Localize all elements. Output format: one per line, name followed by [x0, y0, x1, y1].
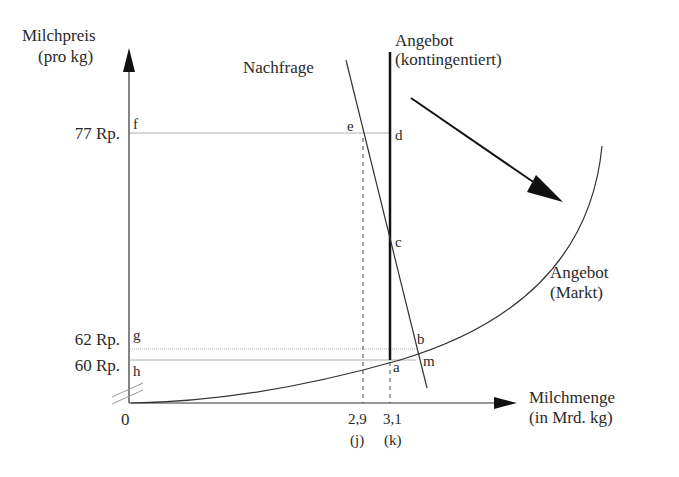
- demand-label: Nachfrage: [243, 58, 314, 77]
- x-axis-label-1: Milchmenge: [529, 388, 615, 407]
- price-tick-62: 62 Rp.: [40, 330, 120, 349]
- point-b: b: [417, 330, 425, 349]
- point-e: e: [347, 117, 354, 136]
- point-d: d: [395, 126, 403, 145]
- demand-line: [346, 60, 427, 388]
- axis-break-icon: [112, 383, 143, 404]
- milk-market-diagram: Milchpreis (pro kg) Angebot (kontingenti…: [0, 0, 679, 477]
- point-k: (k): [384, 431, 402, 450]
- point-c: c: [395, 233, 402, 252]
- point-g: g: [133, 326, 141, 345]
- y-axis-arrow-icon: [123, 48, 135, 72]
- supply-market-label-2: (Markt): [550, 283, 603, 302]
- quantity-tick-3-1: 3,1: [383, 410, 402, 429]
- point-f: f: [133, 115, 138, 134]
- shift-arrow-icon: [527, 175, 563, 202]
- price-tick-60: 60 Rp.: [40, 356, 120, 375]
- y-axis-label-1: Milchpreis: [22, 26, 96, 45]
- origin-label: 0: [121, 410, 130, 429]
- shift-arrow-line: [411, 98, 545, 190]
- dashed-drops: [363, 138, 390, 403]
- x-axis-arrow-icon: [494, 397, 517, 409]
- price-tick-77: 77 Rp.: [40, 124, 120, 143]
- point-h: h: [133, 362, 141, 381]
- point-j: (j): [350, 431, 364, 450]
- x-axis-label-2: (in Mrd. kg): [529, 408, 613, 427]
- y-axis-label-2: (pro kg): [38, 47, 93, 66]
- guide-lines: [130, 133, 418, 360]
- quantity-tick-2-9: 2,9: [348, 410, 367, 429]
- supply-quota-label-2: (kontingentiert): [395, 50, 502, 69]
- point-m: m: [423, 352, 435, 371]
- supply-quota-label-1: Angebot: [395, 31, 454, 50]
- supply-market-label-1: Angebot: [550, 263, 609, 282]
- point-a: a: [393, 358, 400, 377]
